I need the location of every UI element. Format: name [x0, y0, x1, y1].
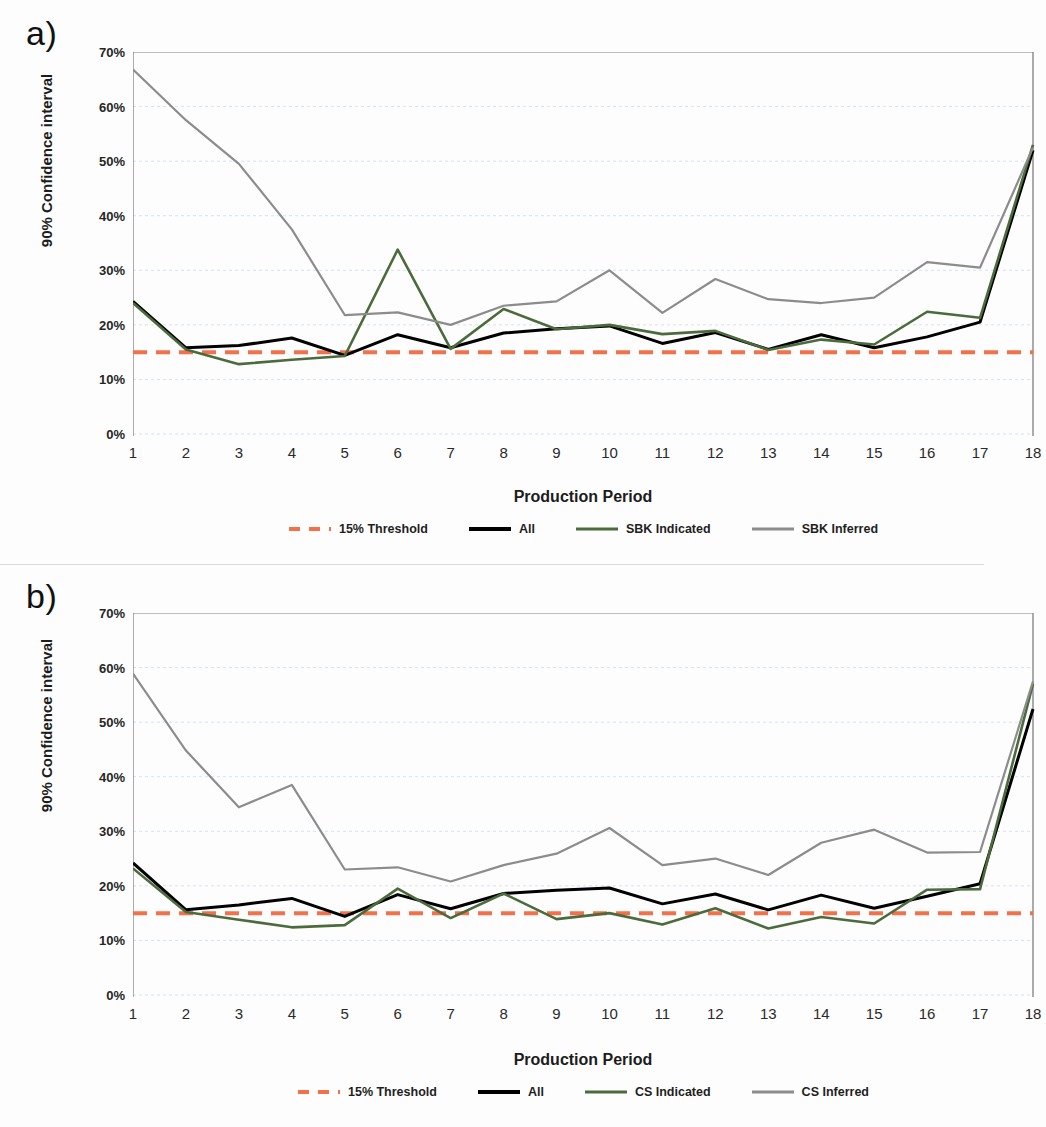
x-tick-label: 10 [589, 1005, 629, 1022]
plot-area-b [133, 613, 1035, 997]
legend-item[interactable]: All [468, 522, 535, 536]
x-tick-label: 9 [537, 444, 577, 461]
x-tick-label: 16 [907, 1005, 947, 1022]
chart-panel-a: a) 90% Confidence interval Production Pe… [0, 0, 984, 565]
x-tick-label: 7 [431, 1005, 471, 1022]
legend-label: All [519, 522, 535, 536]
x-tick-label: 14 [801, 444, 841, 461]
legend-swatch-icon [297, 1087, 341, 1097]
legend-label: SBK Indicated [626, 522, 711, 536]
y-tick-label: 40% [69, 208, 125, 223]
chart-canvas-b [133, 613, 1035, 997]
legend-item[interactable]: SBK Inferred [751, 522, 878, 536]
y-tick-label: 20% [69, 317, 125, 332]
legend-b: 15% ThresholdAllCS IndicatedCS Inferred [133, 1085, 1033, 1099]
x-tick-label: 6 [378, 1005, 418, 1022]
series-line [133, 674, 1033, 882]
panel-label-b: b) [26, 577, 57, 616]
y-tick-label: 10% [69, 372, 125, 387]
x-tick-label: 18 [1013, 444, 1046, 461]
x-tick-label: 4 [272, 1005, 312, 1022]
y-tick-label: 0% [69, 427, 125, 442]
legend-swatch-icon [575, 524, 619, 534]
x-tick-label: 1 [113, 1005, 153, 1022]
x-tick-label: 10 [589, 444, 629, 461]
x-tick-label: 8 [484, 444, 524, 461]
y-tick-label: 10% [69, 933, 125, 948]
legend-swatch-icon [468, 524, 512, 534]
y-tick-label: 70% [69, 606, 125, 621]
x-tick-label: 9 [537, 1005, 577, 1022]
series-line [133, 145, 1033, 364]
x-tick-label: 4 [272, 444, 312, 461]
x-tick-label: 11 [642, 1005, 682, 1022]
y-tick-label: 60% [69, 660, 125, 675]
x-tick-label: 13 [748, 1005, 788, 1022]
chart-panel-b: b) 90% Confidence interval Production Pe… [0, 565, 984, 1127]
series-line [133, 69, 1033, 324]
x-tick-label: 1 [113, 444, 153, 461]
x-tick-label: 5 [325, 444, 365, 461]
y-tick-label: 50% [69, 154, 125, 169]
y-tick-label: 60% [69, 99, 125, 114]
x-tick-label: 12 [695, 444, 735, 461]
x-tick-label: 13 [748, 444, 788, 461]
x-tick-label: 3 [219, 1005, 259, 1022]
chart-canvas-a [133, 52, 1035, 436]
x-tick-label: 17 [960, 444, 1000, 461]
legend-label: CS Inferred [802, 1085, 869, 1099]
y-axis-label-b: 90% Confidence interval [38, 616, 55, 836]
y-tick-label: 0% [69, 988, 125, 1003]
legend-item[interactable]: CS Indicated [584, 1085, 711, 1099]
x-tick-label: 15 [854, 444, 894, 461]
legend-label: 15% Threshold [339, 522, 428, 536]
series-line [133, 709, 1033, 916]
x-tick-label: 14 [801, 1005, 841, 1022]
panel-label-a: a) [26, 14, 57, 53]
x-tick-label: 15 [854, 1005, 894, 1022]
legend-item[interactable]: CS Inferred [751, 1085, 869, 1099]
x-tick-label: 8 [484, 1005, 524, 1022]
y-tick-label: 20% [69, 878, 125, 893]
x-tick-label: 18 [1013, 1005, 1046, 1022]
legend-item[interactable]: SBK Indicated [575, 522, 711, 536]
x-axis-label-a: Production Period [133, 488, 1033, 506]
plot-area-a [133, 52, 1035, 436]
x-tick-label: 11 [642, 444, 682, 461]
legend-label: All [528, 1085, 544, 1099]
legend-item[interactable]: All [477, 1085, 544, 1099]
legend-label: 15% Threshold [348, 1085, 437, 1099]
legend-item[interactable]: 15% Threshold [288, 522, 428, 536]
legend-swatch-icon [584, 1087, 628, 1097]
x-tick-label: 16 [907, 444, 947, 461]
x-tick-label: 5 [325, 1005, 365, 1022]
y-tick-label: 40% [69, 769, 125, 784]
legend-label: SBK Inferred [802, 522, 878, 536]
y-tick-label: 70% [69, 45, 125, 60]
x-tick-label: 12 [695, 1005, 735, 1022]
series-line [133, 684, 1033, 928]
legend-swatch-icon [288, 524, 332, 534]
x-tick-label: 3 [219, 444, 259, 461]
y-tick-label: 50% [69, 715, 125, 730]
y-tick-label: 30% [69, 263, 125, 278]
legend-swatch-icon [751, 1087, 795, 1097]
x-tick-label: 6 [378, 444, 418, 461]
legend-swatch-icon [477, 1087, 521, 1097]
x-tick-label: 2 [166, 1005, 206, 1022]
x-tick-label: 7 [431, 444, 471, 461]
x-axis-label-b: Production Period [133, 1051, 1033, 1069]
x-tick-label: 17 [960, 1005, 1000, 1022]
legend-a: 15% ThresholdAllSBK IndicatedSBK Inferre… [133, 522, 1033, 536]
legend-item[interactable]: 15% Threshold [297, 1085, 437, 1099]
legend-label: CS Indicated [635, 1085, 711, 1099]
y-axis-label-a: 90% Confidence interval [38, 51, 55, 271]
legend-swatch-icon [751, 524, 795, 534]
y-tick-label: 30% [69, 824, 125, 839]
x-tick-label: 2 [166, 444, 206, 461]
